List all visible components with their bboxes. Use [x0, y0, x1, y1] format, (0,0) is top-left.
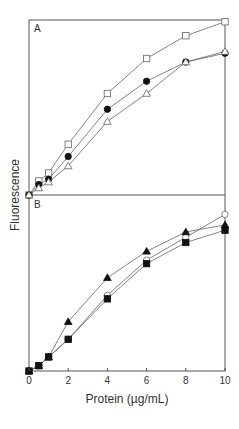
series-line [29, 52, 225, 196]
triangle-marker-icon [143, 248, 151, 255]
triangle-marker-icon [143, 90, 151, 97]
x-tick-label: 10 [219, 375, 231, 386]
square-marker-icon [36, 363, 42, 369]
series-line [29, 22, 225, 195]
x-tick-label: 4 [105, 375, 111, 386]
square-marker-icon [222, 227, 228, 233]
square-marker-icon [65, 141, 71, 147]
square-marker-icon [45, 170, 51, 176]
triangle-marker-icon [104, 274, 112, 281]
panel-b-label: B [34, 199, 41, 210]
circle-marker-icon [222, 211, 228, 217]
x-tick-label: 8 [183, 375, 189, 386]
square-marker-icon [222, 19, 228, 25]
square-marker-icon [143, 260, 149, 266]
square-marker-icon [104, 296, 110, 302]
square-marker-icon [183, 239, 189, 245]
circle-marker-icon [104, 106, 110, 112]
series-filled-square [26, 227, 228, 374]
panel-a-label: A [34, 23, 41, 34]
series-layer [25, 19, 229, 375]
x-tick-label: 0 [26, 375, 32, 386]
series-open-triangle [25, 48, 229, 198]
square-marker-icon [104, 90, 110, 96]
y-axis-label: Fluorescence [8, 159, 22, 231]
plot-frame [29, 20, 225, 371]
series-line [29, 230, 225, 371]
square-marker-icon [183, 33, 189, 39]
series-line [29, 225, 225, 371]
square-marker-icon [45, 354, 51, 360]
series-open-square [26, 19, 228, 199]
x-tick-label: 6 [144, 375, 150, 386]
triangle-marker-icon [104, 118, 112, 125]
series-line [29, 214, 225, 371]
square-marker-icon [65, 336, 71, 342]
circle-marker-icon [65, 153, 71, 159]
circle-marker-icon [143, 78, 149, 84]
x-axis-label: Protein (µg/mL) [86, 392, 169, 406]
figure: 0246810 A B Fluorescence Protein (µg/mL) [0, 0, 239, 429]
square-marker-icon [143, 55, 149, 61]
x-tick-label: 2 [65, 375, 71, 386]
